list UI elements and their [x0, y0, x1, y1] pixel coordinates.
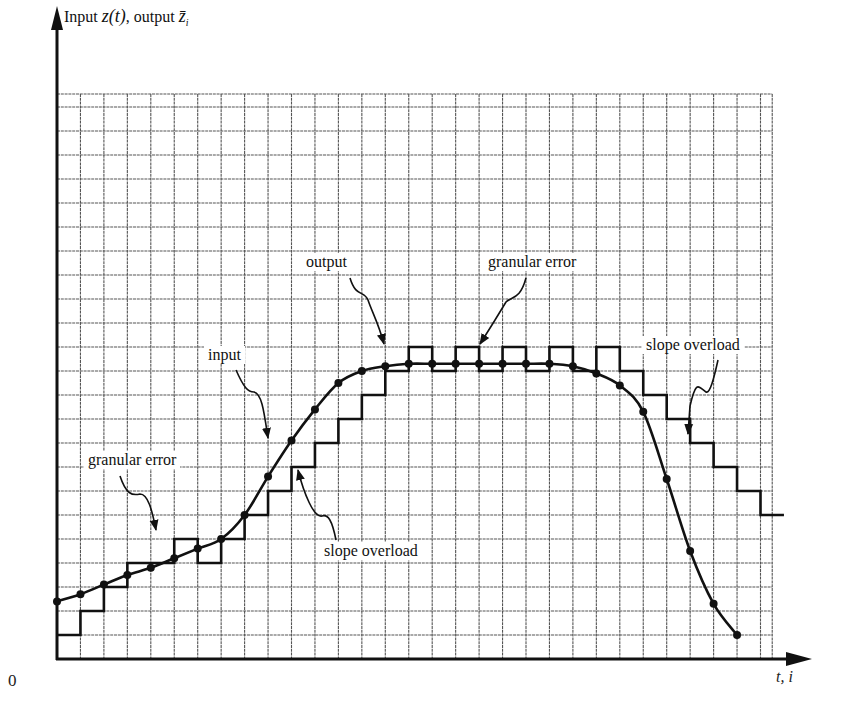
sample-dot [639, 408, 647, 416]
grid [57, 94, 772, 659]
sample-dot [686, 547, 694, 555]
sample-dot [311, 405, 319, 413]
sample-dot [405, 360, 413, 368]
sample-dot [217, 535, 225, 543]
origin-label: 0 [8, 671, 17, 691]
annotation-input: input [204, 346, 245, 364]
sample-dot [288, 437, 296, 445]
y-axis-label-prefix: Input [64, 8, 98, 25]
y-axis-label-input: z(t) [102, 6, 126, 26]
annotation-slope-overload-middle: slope overload [320, 542, 422, 560]
sample-dot [264, 473, 272, 481]
sample-dot [733, 631, 741, 639]
sample-dot [499, 360, 507, 368]
y-axis-label-mid: output [134, 8, 175, 25]
sample-dot [452, 360, 460, 368]
y-axis-label-output: z̄ [179, 6, 186, 26]
sample-dot [710, 600, 718, 608]
sample-dot [123, 571, 131, 579]
sample-dot [100, 581, 108, 589]
annotation-pointers [120, 278, 718, 540]
sample-dot [475, 360, 483, 368]
sample-dot [522, 360, 530, 368]
annotation-slope-overload-right: slope overload [642, 336, 744, 354]
annotation-arrow-icon [350, 278, 384, 344]
annotation-granular-error-left: granular error [84, 451, 180, 469]
input-curve [53, 360, 741, 639]
sample-dot [241, 511, 249, 519]
sample-dot [592, 369, 600, 377]
y-axis-label-output-sub: i [186, 17, 189, 28]
x-axis-label: t, i [776, 668, 793, 686]
annotation-arrow-icon [298, 470, 336, 540]
sample-dot [663, 475, 671, 483]
sample-dot [381, 362, 389, 370]
annotation-output: output [302, 253, 351, 271]
delta-modulation-figure [0, 0, 854, 717]
sample-dot [194, 545, 202, 553]
sample-dot [616, 381, 624, 389]
annotation-granular-error-top: granular error [484, 253, 580, 271]
x-axis-arrow-icon [786, 652, 812, 666]
sample-dot [428, 360, 436, 368]
sample-dot [147, 564, 155, 572]
y-axis-arrow-icon [51, 6, 63, 30]
sample-dot [76, 590, 84, 598]
annotation-arrow-icon [236, 370, 268, 438]
y-axis-label-sep: , [126, 8, 130, 25]
sample-dot [358, 367, 366, 375]
sample-dot [170, 554, 178, 562]
y-axis-label: Input z(t), output z̄i [64, 6, 188, 28]
sample-dot [334, 379, 342, 387]
sample-dot [569, 362, 577, 370]
sample-dot [545, 360, 553, 368]
